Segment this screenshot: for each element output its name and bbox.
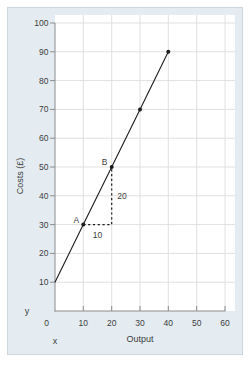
data-point-30-70	[138, 107, 142, 111]
y-tick-label-60: 60	[39, 133, 49, 143]
y-tick-label-90: 90	[39, 47, 49, 57]
y-tick-label-30: 30	[39, 220, 49, 230]
figure: { "chart_data": { "type": "line", "title…	[0, 0, 252, 367]
x-tick-label-10: 10	[79, 318, 89, 328]
y-axis-title: Costs (£)	[15, 158, 25, 195]
y-tick-label-100: 100	[34, 18, 48, 28]
data-point-10-30	[81, 223, 85, 227]
y-tick-label-50: 50	[39, 162, 49, 172]
y-axis-letter: y	[25, 306, 30, 316]
point-label-A: A	[73, 215, 79, 225]
y-tick-label-40: 40	[39, 191, 49, 201]
x-tick-label-40: 40	[164, 318, 174, 328]
x-tick-label-20: 20	[107, 318, 117, 328]
x-axis-title: Output	[126, 334, 153, 344]
chart-canvas: 10203040506070809010001020304050601020AB	[0, 0, 252, 367]
x-tick-label-0: 0	[44, 318, 49, 328]
y-tick-label-80: 80	[39, 76, 49, 86]
data-point-40-90	[166, 50, 170, 54]
x-tick-label-60: 60	[220, 318, 230, 328]
x-tick-label-50: 50	[192, 318, 202, 328]
y-tick-label-10: 10	[39, 277, 49, 287]
data-point-20-50	[110, 165, 114, 169]
x-tick-label-30: 30	[135, 318, 145, 328]
run-label: 10	[93, 230, 103, 240]
x-axis-letter: x	[53, 336, 58, 346]
y-tick-label-20: 20	[39, 248, 49, 258]
y-tick-label-70: 70	[39, 104, 49, 114]
point-label-B: B	[102, 157, 108, 167]
rise-label: 20	[117, 191, 127, 201]
plot-area	[55, 15, 235, 311]
